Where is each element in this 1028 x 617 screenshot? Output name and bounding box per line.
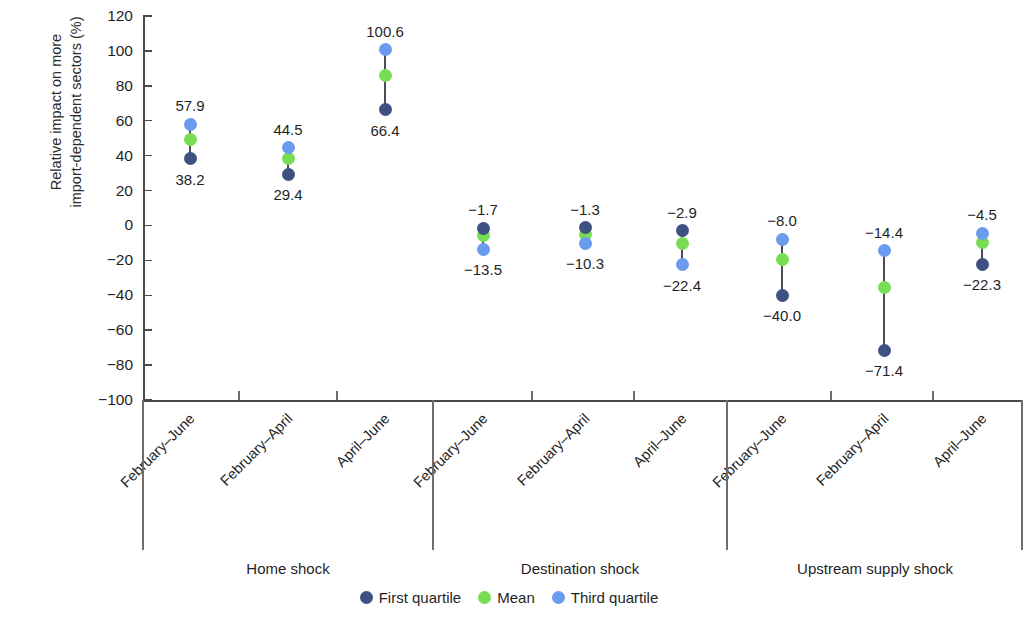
x-axis-category-label: February–April (496, 410, 592, 506)
data-point-third-quartile (676, 258, 689, 271)
range-stem (883, 251, 885, 350)
legend-swatch-icon (360, 591, 373, 604)
data-point-first-quartile (477, 222, 490, 235)
value-label-bottom: 66.4 (340, 123, 430, 138)
value-label-bottom: 38.2 (145, 172, 235, 187)
legend-swatch-icon (552, 591, 565, 604)
data-point-first-quartile (676, 224, 689, 237)
group-separator (726, 400, 727, 550)
value-label-top: −1.7 (438, 202, 528, 217)
group-separator (142, 400, 143, 550)
chart-canvas: Relative impact on more import-dependent… (0, 0, 1028, 617)
y-axis-title: Relative impact on more import-dependent… (46, 0, 86, 262)
data-point-first-quartile (579, 221, 592, 234)
value-label-top: −14.4 (839, 225, 929, 240)
x-axis-category-label: February–June (693, 410, 789, 506)
data-point-first-quartile (184, 152, 197, 165)
value-label-bottom: −22.3 (937, 277, 1027, 292)
category-boundary-tick (633, 391, 634, 400)
data-point-mean (379, 69, 392, 82)
value-label-top: 57.9 (145, 98, 235, 113)
data-point-third-quartile (976, 227, 989, 240)
value-label-top: −2.9 (637, 205, 727, 220)
range-stem (781, 239, 783, 295)
category-boundary-tick (932, 391, 933, 400)
data-point-first-quartile (976, 258, 989, 271)
data-point-third-quartile (282, 141, 295, 154)
y-axis-tick-label: 0 (87, 217, 133, 233)
x-axis-category-label: February–April (795, 410, 891, 506)
x-axis-category-label: February–June (394, 410, 490, 506)
group-separator (1021, 400, 1022, 550)
y-axis-tick-label: 120 (87, 8, 133, 24)
y-axis-tick-label: 20 (87, 183, 133, 199)
y-axis-tick-label: 60 (87, 113, 133, 129)
category-boundary-tick (531, 391, 532, 400)
value-label-bottom: 29.4 (243, 187, 333, 202)
value-label-top: −1.3 (540, 202, 630, 217)
x-axis-category-label: April–June (593, 410, 689, 506)
data-point-third-quartile (184, 118, 197, 131)
x-axis-line (143, 400, 1022, 402)
value-label-bottom: −10.3 (540, 256, 630, 271)
group-separator (432, 400, 433, 550)
data-point-first-quartile (282, 168, 295, 181)
y-axis-tick-label: −60 (87, 322, 133, 338)
y-axis-tick-label: 100 (87, 43, 133, 59)
data-point-first-quartile (878, 344, 891, 357)
data-point-third-quartile (776, 233, 789, 246)
data-point-mean (878, 281, 891, 294)
category-boundary-tick (830, 391, 831, 400)
value-label-top: −4.5 (937, 207, 1027, 222)
legend-item: Third quartile (552, 589, 659, 606)
legend-label: Third quartile (571, 589, 659, 606)
value-label-bottom: −22.4 (637, 278, 727, 293)
value-label-bottom: −13.5 (438, 262, 528, 277)
chart-legend: First quartileMeanThird quartile (0, 589, 1028, 606)
x-axis-category-label: April–June (296, 410, 392, 506)
y-axis-tick-label: 40 (87, 148, 133, 164)
x-axis-group-label: Destination shock (440, 561, 720, 576)
x-axis-group-label: Upstream supply shock (735, 561, 1015, 576)
x-axis-category-label: February–April (199, 410, 295, 506)
data-point-mean (184, 133, 197, 146)
value-label-top: −8.0 (737, 213, 827, 228)
y-axis-tick-label: −20 (87, 252, 133, 268)
y-axis-tick-label: −40 (87, 287, 133, 303)
y-axis-tick-label: −100 (87, 392, 133, 408)
data-point-third-quartile (379, 43, 392, 56)
data-point-third-quartile (579, 237, 592, 250)
data-point-mean (776, 253, 789, 266)
value-label-bottom: −40.0 (737, 308, 827, 323)
category-boundary-tick (336, 391, 337, 400)
legend-label: Mean (497, 589, 535, 606)
legend-swatch-icon (478, 591, 491, 604)
value-label-top: 44.5 (243, 122, 333, 137)
data-point-first-quartile (776, 289, 789, 302)
y-axis-tick-label: 80 (87, 78, 133, 94)
category-boundary-tick (238, 391, 239, 400)
y-axis-line (143, 16, 145, 400)
x-axis-category-label: February–June (101, 410, 197, 506)
x-axis-group-label: Home shock (148, 561, 428, 576)
y-axis-tick-label: −80 (87, 357, 133, 373)
data-point-third-quartile (878, 244, 891, 257)
legend-item: First quartile (360, 589, 462, 606)
data-point-mean (676, 237, 689, 250)
data-point-first-quartile (379, 103, 392, 116)
legend-label: First quartile (379, 589, 462, 606)
data-point-third-quartile (477, 243, 490, 256)
value-label-top: 100.6 (340, 24, 430, 39)
value-label-bottom: −71.4 (839, 363, 929, 378)
legend-item: Mean (478, 589, 535, 606)
x-axis-category-label: April–June (893, 410, 989, 506)
